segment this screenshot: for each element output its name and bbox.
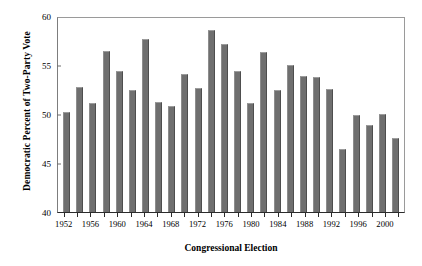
x-axis-tick-mark	[198, 213, 199, 217]
bar-slot	[60, 18, 73, 212]
x-axis-tick-mark	[90, 213, 91, 217]
bar	[116, 71, 123, 212]
bar-slot	[218, 18, 231, 212]
bar-slot	[389, 18, 402, 212]
x-axis-tick-mark	[64, 213, 65, 217]
bar	[168, 106, 175, 212]
x-axis-tick-mark	[398, 213, 399, 217]
y-axis-tick-label: 40	[0, 208, 57, 218]
bar	[339, 149, 346, 212]
bar-slot	[284, 18, 297, 212]
bar-slot	[205, 18, 218, 212]
bar	[76, 87, 83, 212]
x-axis-tick-label: 1984	[269, 219, 286, 229]
y-axis-tick-mark	[57, 164, 61, 165]
x-axis-tick-mark	[345, 213, 346, 217]
x-axis-tick-label: 1960	[109, 219, 126, 229]
x-axis-tick-mark	[358, 213, 359, 217]
x-axis-tick-mark	[305, 213, 306, 217]
bar	[234, 71, 241, 212]
bar-series	[58, 18, 404, 212]
x-axis-tick-mark	[291, 213, 292, 217]
bar	[366, 125, 373, 212]
x-axis-tick-label: 1952	[55, 219, 72, 229]
x-axis-tick-mark	[131, 213, 132, 217]
bar	[89, 103, 96, 212]
bar	[379, 114, 386, 212]
bar	[313, 77, 320, 212]
y-axis-tick-mark	[57, 115, 61, 116]
bar	[300, 76, 307, 212]
bar-slot	[165, 18, 178, 212]
x-axis-tick-label: 1956	[82, 219, 99, 229]
x-axis-tick-mark	[211, 213, 212, 217]
bar	[353, 115, 360, 212]
bar-slot	[192, 18, 205, 212]
x-axis-tick-mark	[318, 213, 319, 217]
bar-slot	[231, 18, 244, 212]
bar	[274, 90, 281, 213]
x-axis-tick-mark	[77, 213, 78, 217]
x-axis-tick-mark	[372, 213, 373, 217]
x-axis-tick-label: 1968	[162, 219, 179, 229]
x-axis-tick-label: 1980	[242, 219, 259, 229]
plot-area	[57, 17, 405, 213]
x-axis-tick-mark	[264, 213, 265, 217]
bar-slot	[113, 18, 126, 212]
bar	[221, 44, 228, 212]
bar-slot	[86, 18, 99, 212]
bar-slot	[336, 18, 349, 212]
x-axis-tick-label: 1996	[350, 219, 367, 229]
bar-slot	[349, 18, 362, 212]
bar	[103, 51, 110, 212]
y-axis-tick-label: 60	[0, 12, 57, 22]
x-axis-tick-label: 1964	[135, 219, 152, 229]
bar-slot	[257, 18, 270, 212]
bar	[208, 30, 215, 212]
bar-slot	[310, 18, 323, 212]
x-axis-tick-mark	[171, 213, 172, 217]
bar	[260, 52, 267, 212]
x-axis-tick-mark	[251, 213, 252, 217]
x-axis-tick-mark	[331, 213, 332, 217]
bar-slot	[126, 18, 139, 212]
bar	[392, 138, 399, 212]
x-axis-tick-label: 1976	[216, 219, 233, 229]
bar	[63, 112, 70, 212]
y-axis-tick-mark	[57, 66, 61, 67]
bar	[326, 89, 333, 212]
x-axis-tick-label: 1988	[296, 219, 313, 229]
x-axis-tick-mark	[278, 213, 279, 217]
bar	[247, 103, 254, 212]
bar-slot	[73, 18, 86, 212]
bar-slot	[178, 18, 191, 212]
x-axis-title: Congressional Election	[57, 243, 405, 253]
y-axis-tick-label: 50	[0, 110, 57, 120]
bar	[155, 102, 162, 212]
x-axis-tick-mark	[224, 213, 225, 217]
bar-slot	[376, 18, 389, 212]
bar-slot	[99, 18, 112, 212]
bar-slot	[271, 18, 284, 212]
x-axis-tick-mark	[117, 213, 118, 217]
bar	[129, 90, 136, 212]
bar	[195, 88, 202, 212]
x-axis-tick-label: 2000	[376, 219, 393, 229]
bar-chart: Democratic Percent of Two-Party Vote 404…	[0, 0, 422, 266]
x-axis-tick-mark	[104, 213, 105, 217]
x-axis-tick-mark	[184, 213, 185, 217]
x-axis-tick-mark	[385, 213, 386, 217]
x-axis-tick-label: 1972	[189, 219, 206, 229]
x-axis-tick-mark	[144, 213, 145, 217]
y-axis-tick-label: 55	[0, 61, 57, 71]
bar	[142, 39, 149, 212]
bar	[287, 65, 294, 212]
bar-slot	[152, 18, 165, 212]
x-axis-tick-mark	[238, 213, 239, 217]
bar-slot	[139, 18, 152, 212]
x-axis-tick-label: 1992	[323, 219, 340, 229]
x-axis-tick-mark	[157, 213, 158, 217]
bar-slot	[323, 18, 336, 212]
bar-slot	[363, 18, 376, 212]
bar-slot	[244, 18, 257, 212]
